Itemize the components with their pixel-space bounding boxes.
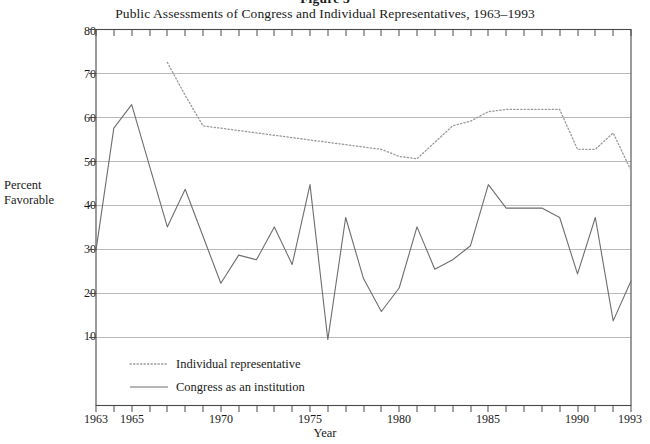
series-line-individual [167,62,631,170]
gridlines [96,74,631,338]
plot-frame [96,30,631,406]
figure-container: Figure 3 Public Assessments of Congress … [0,0,650,444]
plot-area [0,0,650,444]
series-line-congress [96,105,631,340]
